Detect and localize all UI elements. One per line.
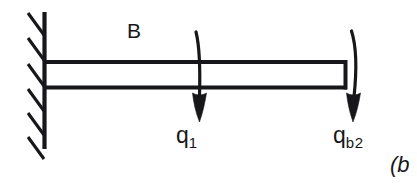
load-arrow-qb2-shaft <box>352 31 356 97</box>
hatch-mark-6 <box>28 137 44 159</box>
beam-label-B: B <box>127 20 142 41</box>
diagram-canvas <box>0 0 417 191</box>
load-label-q1-symbol: q <box>176 122 189 148</box>
load-label-qb2-symbol: q <box>333 122 346 148</box>
load-arrow-qb2 <box>347 31 361 122</box>
load-label-q1: q1 <box>176 124 198 150</box>
hatch-mark-5 <box>28 113 44 135</box>
hatch-mark-3 <box>28 64 44 86</box>
beam-member <box>43 60 347 90</box>
load-label-q1-subscript: 1 <box>189 134 198 151</box>
load-label-qb2: qb2 <box>333 124 363 150</box>
beam-diagram-figure: B q1 qb2 (b <box>0 0 417 191</box>
support-hatching <box>28 13 44 159</box>
figure-caption: (b <box>390 154 410 176</box>
hatch-mark-2 <box>28 38 44 60</box>
hatch-mark-4 <box>28 89 44 111</box>
load-arrow-qb2-head <box>347 93 361 122</box>
hatch-mark-1 <box>28 13 44 35</box>
load-label-qb2-subscript: b2 <box>346 134 364 151</box>
load-arrow-q1-head <box>193 93 207 122</box>
load-arrow-q1 <box>193 32 207 122</box>
